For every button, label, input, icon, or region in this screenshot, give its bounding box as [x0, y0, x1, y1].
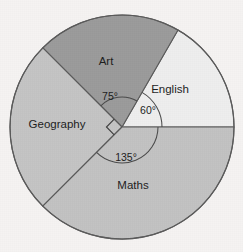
angle-label-75: 75°	[102, 90, 118, 102]
pie-chart-canvas: English Art Geography Maths 75° 60° 135°	[0, 0, 243, 252]
pie-label-geography: Geography	[29, 118, 86, 130]
pie-chart-figure: English Art Geography Maths 75° 60° 135°	[0, 0, 243, 252]
angle-label-60: 60°	[140, 104, 156, 116]
pie-label-art: Art	[99, 55, 115, 67]
pie-label-english: English	[151, 83, 189, 95]
pie-label-maths: Maths	[117, 179, 149, 191]
angle-label-135: 135°	[115, 151, 137, 163]
